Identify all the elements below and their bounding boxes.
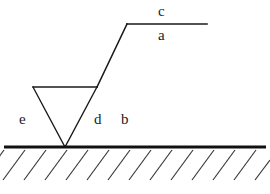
figure-canvas: c a e d b bbox=[0, 0, 270, 194]
label-d: d bbox=[94, 112, 102, 127]
label-a: a bbox=[158, 28, 165, 43]
hatch-line bbox=[45, 150, 67, 180]
label-e: e bbox=[19, 112, 26, 127]
rod-group bbox=[97, 24, 207, 87]
hatch-line bbox=[213, 150, 235, 180]
diagram-svg bbox=[0, 0, 270, 194]
wedge-right-edge bbox=[65, 87, 97, 147]
wedge-triangle bbox=[33, 87, 97, 147]
rod-diagonal-segment bbox=[97, 24, 127, 87]
hatch-line bbox=[108, 150, 130, 180]
label-b: b bbox=[121, 112, 129, 127]
hatch-line bbox=[234, 150, 256, 180]
ground-hatching bbox=[0, 150, 270, 180]
hatch-line bbox=[150, 150, 172, 180]
hatch-line bbox=[255, 160, 270, 180]
label-c: c bbox=[158, 4, 165, 19]
hatch-line bbox=[129, 150, 151, 180]
hatch-line bbox=[192, 150, 214, 180]
hatch-line bbox=[0, 150, 4, 180]
hatch-line bbox=[66, 150, 88, 180]
wedge-left-edge bbox=[33, 87, 65, 147]
hatch-line bbox=[24, 150, 46, 180]
hatch-line bbox=[3, 150, 25, 180]
hatch-line bbox=[87, 150, 109, 180]
hatch-line bbox=[171, 150, 193, 180]
